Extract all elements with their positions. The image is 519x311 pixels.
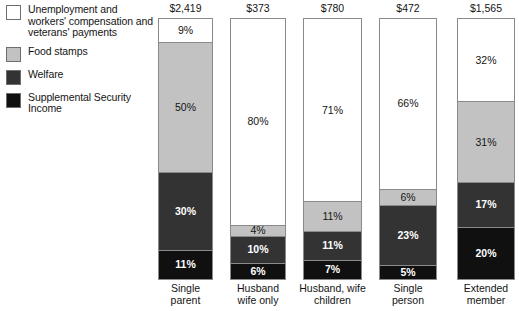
- bar-segment[interactable]: 71%: [304, 19, 361, 201]
- bar-stack[interactable]: 9%50%30%11%: [158, 18, 213, 280]
- bar-segment[interactable]: 10%: [231, 236, 285, 263]
- bar-segment[interactable]: 17%: [458, 182, 514, 227]
- bar-segment-label: 71%: [322, 105, 343, 116]
- bar-segment-label: 11%: [322, 240, 342, 251]
- bar-segment[interactable]: 30%: [159, 172, 212, 250]
- bar-segment-label: 66%: [397, 98, 418, 109]
- bar-segment[interactable]: 23%: [380, 205, 436, 265]
- bar-stack[interactable]: 80%4%10%6%: [230, 18, 286, 280]
- bar-total-label: $1,565: [457, 2, 515, 14]
- bar-segment-label: 23%: [397, 230, 418, 241]
- bar-group: $2,4199%50%30%11%Singleparent: [158, 0, 213, 311]
- bar-segment-label: 9%: [178, 25, 193, 36]
- bar-segment-label: 30%: [175, 206, 196, 217]
- bar-group: $37380%4%10%6%Husbandwife only: [230, 0, 286, 311]
- bar-segment[interactable]: 20%: [458, 227, 514, 279]
- bar-segment[interactable]: 11%: [159, 250, 212, 279]
- bar-segment-label: 80%: [247, 116, 268, 127]
- bar-segment-label: 50%: [175, 102, 196, 113]
- bar-segment-label: 11%: [175, 259, 195, 270]
- bar-segment-label: 32%: [475, 55, 496, 66]
- bar-segment[interactable]: 5%: [380, 265, 436, 279]
- bar-group: $47266%6%23%5%Singleperson: [379, 0, 437, 311]
- bar-segment-label: 31%: [475, 137, 496, 148]
- bar-total-label: $373: [230, 2, 286, 14]
- bar-stack[interactable]: 71%11%11%7%: [303, 18, 362, 280]
- bar-total-label: $2,419: [158, 2, 213, 14]
- stacked-bar-chart: $2,4199%50%30%11%Singleparent$37380%4%10…: [0, 0, 519, 311]
- bar-segment-label: 6%: [250, 266, 265, 277]
- bar-segment[interactable]: 32%: [458, 19, 514, 101]
- bar-group: $78071%11%11%7%Husband, wifechildren: [303, 0, 362, 311]
- bar-segment[interactable]: 6%: [231, 263, 285, 279]
- bar-segment[interactable]: 50%: [159, 42, 212, 172]
- bar-segment-label: 5%: [400, 267, 415, 278]
- bar-segment-label: 17%: [475, 199, 496, 210]
- bar-segment-label: 10%: [247, 244, 268, 255]
- bar-segment-label: 11%: [322, 211, 342, 222]
- bar-segment-label: 6%: [400, 192, 415, 203]
- bar-group: $1,56532%31%17%20%Extendedmember: [457, 0, 515, 311]
- bar-segment[interactable]: 7%: [304, 260, 361, 279]
- bar-segment-label: 7%: [325, 264, 340, 275]
- bar-segment[interactable]: 4%: [231, 225, 285, 236]
- bar-segment[interactable]: 11%: [304, 201, 361, 230]
- bar-segment[interactable]: 80%: [231, 19, 285, 225]
- bar-segment[interactable]: 31%: [458, 101, 514, 182]
- bar-segment[interactable]: 9%: [159, 19, 212, 42]
- bar-total-label: $780: [303, 2, 362, 14]
- bar-segment[interactable]: 66%: [380, 19, 436, 189]
- bar-segment-label: 20%: [475, 248, 496, 259]
- bar-segment-label: 4%: [250, 225, 265, 236]
- bar-category-label: Extendedmember: [439, 283, 519, 307]
- bar-stack[interactable]: 66%6%23%5%: [379, 18, 437, 280]
- bar-segment[interactable]: 11%: [304, 231, 361, 260]
- bar-segment[interactable]: 6%: [380, 189, 436, 205]
- bar-total-label: $472: [379, 2, 437, 14]
- bar-stack[interactable]: 32%31%17%20%: [457, 18, 515, 280]
